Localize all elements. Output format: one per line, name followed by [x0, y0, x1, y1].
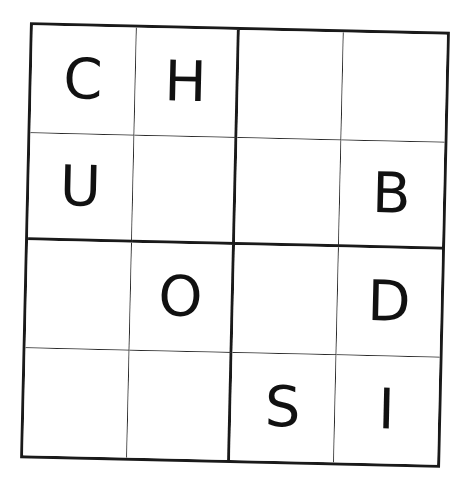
cell-r3c2[interactable]: O	[129, 243, 235, 353]
cell-r2c4[interactable]: B	[338, 140, 444, 250]
cell-r2c1[interactable]: U	[28, 133, 134, 243]
cell-r3c4[interactable]: D	[336, 247, 442, 357]
cell-r4c3[interactable]: S	[230, 352, 336, 462]
puzzle-grid: C H U B O D S I	[20, 22, 450, 467]
cell-r1c2[interactable]: H	[134, 28, 240, 138]
cell-r1c3[interactable]	[237, 30, 343, 140]
cell-r2c2[interactable]	[132, 135, 238, 245]
cell-r1c1[interactable]: C	[30, 25, 136, 135]
cell-r4c4[interactable]: I	[334, 355, 440, 465]
cell-r2c3[interactable]	[235, 138, 341, 248]
cell-r4c2[interactable]	[127, 350, 233, 460]
cell-r3c3[interactable]	[233, 245, 339, 355]
cell-r1c4[interactable]	[341, 32, 447, 142]
cell-r4c1[interactable]	[23, 348, 129, 458]
cell-r3c1[interactable]	[26, 240, 132, 350]
